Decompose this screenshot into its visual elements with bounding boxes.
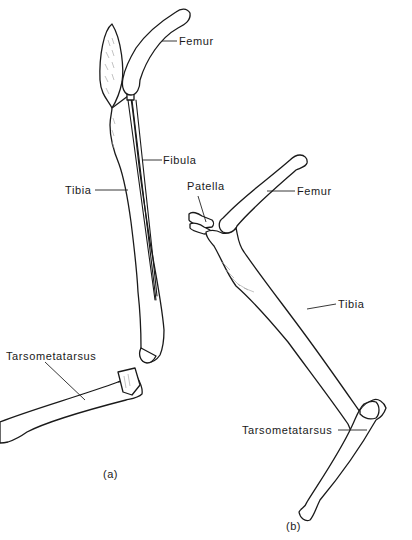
patella-label: Patella	[187, 180, 225, 192]
tarsometatarsus-a-label: Tarsometatarsus	[6, 350, 96, 362]
tibia-a-label: Tibia	[65, 184, 91, 196]
femur-b-label: Femur	[297, 185, 332, 197]
tibia-a-crest	[100, 24, 123, 108]
tarsometatarsus-b-label: Tarsometatarsus	[242, 424, 332, 436]
diagram-drawing	[0, 0, 412, 540]
tibia-a	[110, 96, 164, 362]
femur-a-label: Femur	[179, 35, 214, 47]
bird-leg-diagram: Femur Fibula Tibia Tarsometatarsus (a) P…	[0, 0, 412, 540]
panel-b-caption: (b)	[286, 520, 301, 532]
panel-a-caption: (a)	[103, 468, 118, 480]
fibula-a-label: Fibula	[163, 154, 197, 166]
panel-b-drawing	[189, 155, 386, 521]
femur-a	[122, 9, 190, 95]
tibia-b	[206, 228, 370, 436]
femur-b	[219, 155, 307, 233]
tarsometatarsus-a-leader	[45, 362, 85, 400]
tibia-b-label: Tibia	[338, 298, 364, 310]
tibia-b-leader	[307, 304, 336, 309]
panel-a-drawing	[0, 9, 190, 443]
